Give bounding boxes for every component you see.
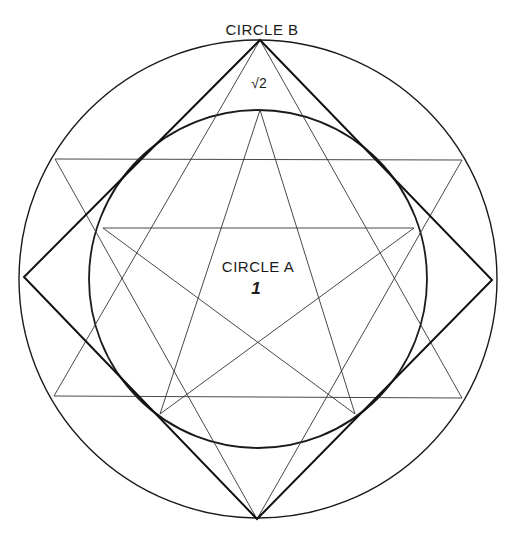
circle-b-label: CIRCLE B — [225, 22, 298, 37]
hexagram-triangle-up — [54, 40, 462, 398]
circle-b-value-label: √2 — [251, 76, 266, 90]
circle-a-label: CIRCLE A — [222, 259, 294, 274]
hexagram-triangle-down — [55, 159, 462, 519]
circle-a-value-label: 1 — [251, 280, 260, 297]
